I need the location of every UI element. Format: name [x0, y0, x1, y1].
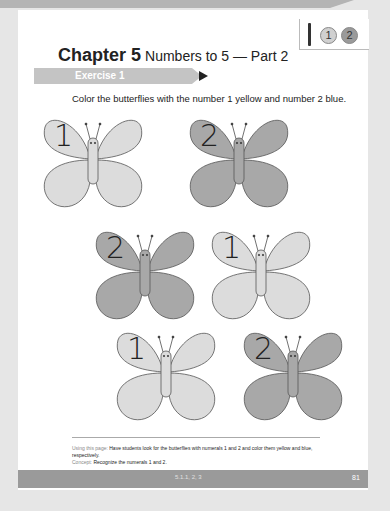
using-label: Using this page: — [72, 445, 108, 451]
butterfly-number: 2 — [254, 331, 273, 366]
butterfly-number: 1 — [222, 230, 241, 265]
butterfly-6[interactable]: 2 — [240, 325, 346, 425]
chapter-subtitle: Numbers to 5 — Part 2 — [145, 48, 288, 64]
crayon-icon — [308, 23, 311, 46]
chapter-title: Chapter 5Numbers to 5 — Part 2 — [58, 45, 288, 66]
exercise-title: Exercise 1 — [75, 70, 125, 81]
coin-2-blue: 2 — [341, 27, 358, 44]
concept-line: Concept: Recognize the numerals 1 and 2. — [72, 459, 332, 466]
page-number: 81 — [352, 474, 360, 481]
concept-label: Concept: — [72, 459, 92, 465]
butterfly-2[interactable]: 2 — [186, 112, 292, 212]
butterfly-3[interactable]: 2 — [92, 224, 198, 324]
footer-code: 5.1.1, 2, 3 — [175, 474, 202, 480]
coin-1-yellow: 1 — [320, 27, 337, 44]
using-text: Have students look for the butterflies w… — [72, 445, 312, 458]
concept-text: Recognize the numerals 1 and 2. — [93, 459, 166, 465]
chapter-label: Chapter 5 — [58, 45, 141, 65]
exercise-instruction: Color the butterflies with the number 1 … — [72, 93, 346, 104]
butterfly-number: 2 — [200, 118, 219, 153]
divider — [72, 437, 320, 438]
butterfly-5[interactable]: 1 — [113, 325, 219, 425]
arrow-right-icon — [199, 71, 208, 81]
butterfly-1[interactable]: 1 — [40, 112, 146, 212]
color-legend: 1 2 — [299, 19, 369, 50]
teacher-note: Using this page: Have students look for … — [72, 445, 332, 466]
top-header-band — [0, 0, 390, 8]
butterfly-number: 1 — [54, 118, 73, 153]
butterfly-number: 1 — [127, 331, 146, 366]
using-line: Using this page: Have students look for … — [72, 445, 332, 459]
butterfly-4[interactable]: 1 — [208, 224, 314, 324]
butterfly-number: 2 — [106, 230, 125, 265]
